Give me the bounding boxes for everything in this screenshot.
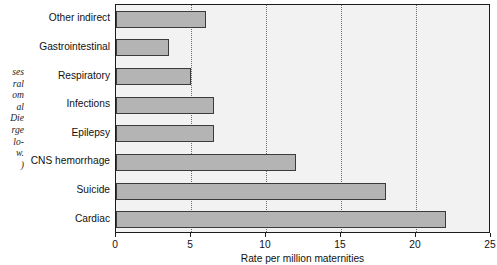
bar-fill <box>116 97 214 114</box>
bar <box>116 183 386 200</box>
y-axis-label: CNS hemorrhage <box>0 155 110 166</box>
bar-fill <box>116 68 191 85</box>
x-axis-tick <box>115 233 116 237</box>
plot-area <box>115 4 490 233</box>
bar-fill <box>116 154 296 171</box>
y-axis-labels: Other indirectGastrointestinalRespirator… <box>0 4 110 233</box>
bar-fill <box>116 211 446 228</box>
bar-fill <box>116 125 214 142</box>
x-axis-tick-label: 10 <box>259 239 270 250</box>
x-axis-tick-label: 0 <box>112 239 118 250</box>
bar <box>116 39 169 56</box>
y-axis-label: Epilepsy <box>0 127 110 138</box>
y-axis-label: Cardiac <box>0 213 110 224</box>
bar-fill <box>116 39 169 56</box>
y-axis-label: Infections <box>0 98 110 109</box>
y-axis-label: Other indirect <box>0 12 110 23</box>
bar <box>116 11 206 28</box>
x-axis-tick <box>340 233 341 237</box>
bar <box>116 211 446 228</box>
bar <box>116 97 214 114</box>
x-axis-tick <box>265 233 266 237</box>
x-axis-tick-label: 20 <box>409 239 420 250</box>
bar <box>116 68 191 85</box>
x-axis-tick <box>190 233 191 237</box>
x-axis-tick <box>415 233 416 237</box>
x-axis: Rate per million maternities 0510152025 <box>115 233 490 265</box>
gridline <box>416 5 417 232</box>
y-axis-label: Suicide <box>0 184 110 195</box>
y-axis-label: Gastrointestinal <box>0 41 110 52</box>
x-axis-tick <box>490 233 491 237</box>
x-axis-tick-label: 5 <box>187 239 193 250</box>
bar <box>116 154 296 171</box>
bar-fill <box>116 183 386 200</box>
x-axis-tick-label: 25 <box>484 239 495 250</box>
x-axis-tick-label: 15 <box>334 239 345 250</box>
x-axis-title: Rate per million maternities <box>115 253 490 264</box>
bar <box>116 125 214 142</box>
bar-fill <box>116 11 206 28</box>
y-axis-label: Respiratory <box>0 70 110 81</box>
